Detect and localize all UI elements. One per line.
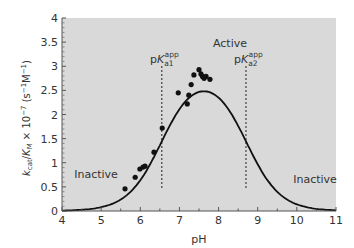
y-tick-label: 2	[51, 109, 58, 122]
data-point	[196, 67, 201, 72]
data-point	[160, 125, 165, 130]
data-point	[122, 186, 127, 191]
y-tick-label: 4	[51, 12, 58, 25]
data-point	[142, 164, 147, 169]
y-tick-label: 3	[51, 60, 58, 73]
data-point	[176, 90, 181, 95]
x-tick-label: 9	[254, 214, 261, 227]
active-label: Active	[213, 37, 247, 50]
y-tick-label: 1.5	[41, 133, 59, 146]
x-axis-title: pH	[191, 233, 206, 246]
data-point	[133, 175, 138, 180]
y-tick-label: 3.5	[41, 36, 59, 49]
x-tick-label: 8	[215, 214, 222, 227]
data-point	[151, 150, 156, 155]
x-tick-label: 7	[176, 214, 183, 227]
y-tick-label: 1	[51, 157, 58, 170]
x-tick-label: 4	[59, 214, 66, 227]
inactive-right-label: Inactive	[293, 173, 337, 186]
x-tick-label: 11	[329, 214, 343, 227]
y-tick-label: 0.5	[41, 181, 59, 194]
ph-activity-chart: 4567891011 00.511.522.533.54 pH Active I…	[0, 0, 354, 248]
data-point	[189, 82, 194, 87]
x-tick-label: 5	[98, 214, 105, 227]
data-point	[207, 77, 212, 82]
x-tick-label: 10	[290, 214, 304, 227]
data-point	[186, 93, 191, 98]
data-point	[191, 72, 196, 77]
y-tick-label: 2.5	[41, 84, 59, 97]
y-axis-title: kcat/KM × 10−7 (s−1M−1)	[20, 60, 34, 176]
inactive-left-label: Inactive	[74, 168, 118, 181]
y-tick-label: 0	[51, 205, 58, 218]
data-point	[185, 101, 190, 106]
x-tick-label: 6	[137, 214, 144, 227]
